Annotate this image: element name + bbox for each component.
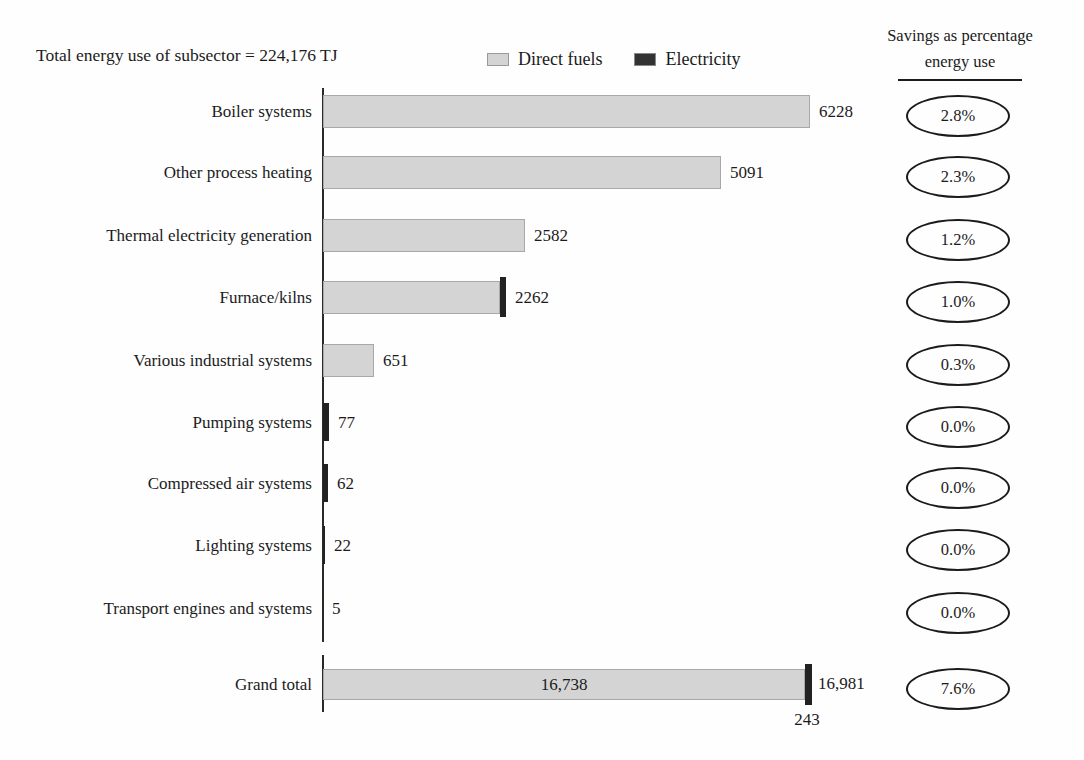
savings-column-header: Savings as percentage energy use: [872, 23, 1048, 75]
bar-value-label: 6228: [819, 100, 853, 123]
category-label: Various industrial systems: [0, 349, 312, 372]
savings-header-line1: Savings as percentage: [872, 23, 1048, 49]
bar-value-label: 2262: [515, 286, 549, 309]
savings-oval: 2.3%: [906, 156, 1010, 198]
category-label: Transport engines and systems: [0, 597, 312, 620]
bar-value-label: 77: [338, 411, 355, 434]
category-label: Boiler systems: [0, 100, 312, 123]
savings-oval: 0.0%: [906, 467, 1010, 509]
electricity-bar: [323, 464, 328, 502]
category-label-grand-total: Grand total: [0, 673, 312, 696]
direct-fuels-bar: [323, 281, 500, 314]
grand-total-direct-value-label: 16,738: [323, 673, 805, 696]
direct-fuels-bar: [323, 219, 525, 252]
category-label: Compressed air systems: [0, 472, 312, 495]
savings-oval: 0.0%: [906, 406, 1010, 448]
grand-total-electricity-bar: [805, 664, 812, 705]
electricity-bar: [323, 403, 329, 441]
bar-value-label: 62: [337, 472, 354, 495]
direct-fuels-bar: [323, 95, 810, 128]
legend: Direct fuels Electricity: [487, 46, 740, 72]
legend-label-direct-fuels: Direct fuels: [518, 49, 602, 70]
direct-fuels-swatch: [487, 53, 509, 66]
category-label: Lighting systems: [0, 534, 312, 557]
bar-value-label: 651: [383, 349, 409, 372]
electricity-bar-cap: [500, 277, 506, 317]
bar-value-label: 5: [332, 597, 341, 620]
category-label: Other process heating: [0, 161, 312, 184]
bar-value-label: 22: [334, 534, 351, 557]
direct-fuels-bar: [323, 156, 721, 189]
grand-total-electricity-value-label: 243: [784, 708, 830, 731]
electricity-bar: [323, 526, 325, 564]
category-label: Furnace/kilns: [0, 286, 312, 309]
savings-oval: 1.2%: [906, 219, 1010, 261]
savings-oval: 0.0%: [906, 529, 1010, 571]
category-label: Thermal electricity generation: [0, 224, 312, 247]
bar-value-label: 5091: [730, 161, 764, 184]
grand-total-value-label: 16,981: [818, 672, 865, 695]
energy-savings-bar-chart: Total energy use of subsector = 224,176 …: [0, 0, 1084, 760]
chart-title: Total energy use of subsector = 224,176 …: [36, 45, 338, 66]
electricity-swatch: [634, 53, 656, 66]
legend-label-electricity: Electricity: [665, 49, 740, 70]
category-label: Pumping systems: [0, 411, 312, 434]
savings-header-underline: [898, 79, 1022, 81]
direct-fuels-bar: [323, 344, 374, 377]
savings-oval-grand-total: 7.6%: [906, 668, 1010, 710]
savings-oval: 1.0%: [906, 281, 1010, 323]
savings-header-line2: energy use: [872, 49, 1048, 75]
savings-oval: 0.3%: [906, 344, 1010, 386]
savings-oval: 0.0%: [906, 592, 1010, 634]
savings-oval: 2.8%: [906, 95, 1010, 137]
bar-value-label: 2582: [534, 224, 568, 247]
